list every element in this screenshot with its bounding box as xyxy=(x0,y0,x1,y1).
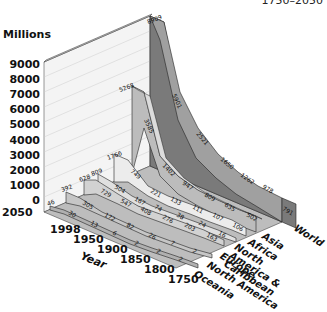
x-tick: 2050 xyxy=(2,206,33,219)
